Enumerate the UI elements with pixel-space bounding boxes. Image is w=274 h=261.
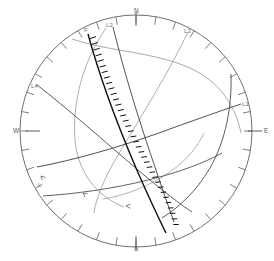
great-circle-p1 [113, 27, 174, 222]
lineation-label-l4: L4 [31, 83, 38, 89]
stereonet-figure: N E S W F L2 L3 L1 L4 L [0, 0, 274, 261]
fault-great-circle [88, 34, 166, 233]
lineation-label-l2: L2 [106, 22, 113, 28]
cardinal-label-w: W [13, 128, 19, 135]
cardinal-label-e: E [264, 128, 268, 135]
lineation-label-l3: L3 [184, 28, 191, 34]
cardinal-ticks [26, 12, 262, 250]
lineation-label-l1: L1 [242, 101, 249, 107]
great-circle-p2 [37, 104, 241, 167]
azimuth-ticks [20, 15, 252, 247]
cardinal-label-s: S [134, 246, 138, 253]
fault-label: F [84, 27, 88, 33]
primitive-circle [20, 15, 252, 247]
cardinal-label-n: N [134, 8, 139, 15]
stereonet-canvas [0, 0, 274, 261]
great-circle-p7 [103, 133, 204, 199]
great-circle-p4 [94, 32, 188, 213]
great-circle-p3 [72, 39, 241, 133]
lineation-label-l: L [38, 182, 41, 188]
